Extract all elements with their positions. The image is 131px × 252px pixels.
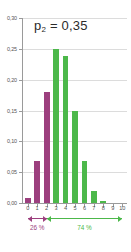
y-tick-label: 0,20 <box>7 77 17 83</box>
span-line <box>47 218 123 219</box>
x-tick-label: 0 <box>26 205 29 211</box>
x-tick-label: 1 <box>36 205 39 211</box>
bar <box>91 191 97 203</box>
y-tick-mark <box>19 49 22 50</box>
y-tick-label: 0,00 <box>7 200 17 206</box>
bar <box>63 56 69 203</box>
y-tick-label: 0,25 <box>7 46 17 52</box>
bar <box>34 161 40 203</box>
bar-series <box>23 18 127 203</box>
histogram-figure: p2 = 0,35 0,000,050,100,150,200,250,30 0… <box>0 0 131 252</box>
upper-tail-span: 74 % <box>47 215 123 222</box>
y-tick-mark <box>19 18 22 19</box>
tail-annotations: 26 %74 % <box>22 215 127 250</box>
x-tick-label: 10 <box>119 205 125 211</box>
y-tick-label: 0,10 <box>7 138 17 144</box>
x-axis-labels: 012345678910 <box>22 205 127 214</box>
x-tick-label: 4 <box>64 205 67 211</box>
lower-tail-span: 26 % <box>28 215 47 222</box>
y-tick-mark <box>19 80 22 81</box>
x-tick-label: 7 <box>92 205 95 211</box>
arrow-right-icon <box>118 216 122 222</box>
plot-area: 0,000,050,100,150,200,250,30 <box>22 18 127 204</box>
bar <box>53 49 59 203</box>
x-tick-label: 9 <box>111 205 114 211</box>
x-tick-label: 2 <box>45 205 48 211</box>
y-tick-label: 0,15 <box>7 108 17 114</box>
y-tick-label: 0,05 <box>7 169 17 175</box>
x-tick-label: 5 <box>73 205 76 211</box>
tail-percentage-label: 74 % <box>47 224 123 231</box>
x-tick-label: 8 <box>102 205 105 211</box>
arrow-left-icon <box>47 216 51 222</box>
y-tick-mark <box>19 172 22 173</box>
x-tick-label: 6 <box>83 205 86 211</box>
bar <box>100 201 106 203</box>
x-tick-label: 3 <box>55 205 58 211</box>
bar <box>25 198 31 203</box>
y-tick-mark <box>19 203 22 204</box>
bar <box>72 111 78 204</box>
tail-percentage-label: 26 % <box>28 224 47 231</box>
arrow-left-icon <box>28 216 32 222</box>
y-tick-mark <box>19 141 22 142</box>
y-tick-label: 0,30 <box>7 15 17 21</box>
y-tick-mark <box>19 111 22 112</box>
bar <box>44 92 50 203</box>
bar <box>82 161 88 203</box>
